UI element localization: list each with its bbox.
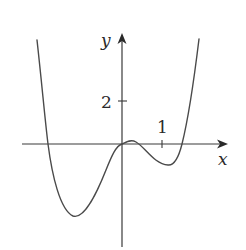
y-axis-label: y	[100, 30, 111, 50]
x-tick-label: 1	[157, 117, 168, 137]
function-curve	[37, 39, 199, 216]
x-axis-label: x	[218, 149, 228, 169]
y-tick-label: 2	[101, 92, 112, 112]
chart: y x 2 1	[0, 0, 246, 250]
